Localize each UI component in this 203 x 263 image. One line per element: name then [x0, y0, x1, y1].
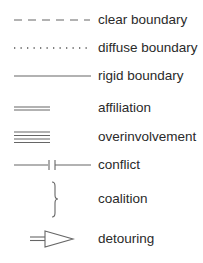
solid-line-icon: [0, 66, 95, 86]
legend-label: conflict: [98, 157, 140, 173]
legend-item-coalition: coalition: [0, 180, 203, 220]
family-structure-legend: clear boundary diffuse boundary rigid bo…: [0, 0, 203, 263]
cropped-caption: [10, 256, 195, 263]
legend-item-conflict: conflict: [0, 155, 203, 175]
legend-item-diffuse-boundary: diffuse boundary: [0, 38, 203, 58]
legend-label: rigid boundary: [98, 68, 184, 84]
dashed-line-icon: [0, 10, 95, 30]
arrow-outline-icon: [0, 228, 95, 250]
legend-item-rigid-boundary: rigid boundary: [0, 66, 203, 86]
legend-label: diffuse boundary: [98, 40, 198, 56]
legend-label: coalition: [98, 191, 148, 207]
broken-line-icon: [0, 155, 95, 175]
legend-label: clear boundary: [98, 12, 187, 28]
legend-label: detouring: [98, 231, 154, 247]
quadruple-line-icon: [0, 126, 95, 148]
legend-item-overinvolvement: overinvolvement: [0, 126, 203, 146]
double-line-icon: [0, 98, 95, 118]
brace-icon: [0, 180, 95, 220]
legend-item-clear-boundary: clear boundary: [0, 10, 203, 30]
dotted-line-icon: [0, 38, 95, 58]
legend-label: overinvolvement: [98, 129, 196, 145]
legend-item-affiliation: affiliation: [0, 98, 203, 118]
legend-label: affiliation: [98, 100, 151, 116]
legend-item-detouring: detouring: [0, 228, 203, 250]
